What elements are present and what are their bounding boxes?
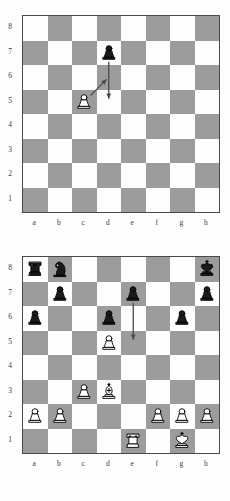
square-h2[interactable] xyxy=(195,404,220,429)
square-d4[interactable] xyxy=(97,114,122,139)
square-e4[interactable] xyxy=(121,355,146,380)
square-g3[interactable] xyxy=(170,139,195,164)
square-h3[interactable] xyxy=(195,139,220,164)
square-a8[interactable] xyxy=(23,257,48,282)
square-e1[interactable] xyxy=(121,188,146,213)
square-f5[interactable] xyxy=(146,90,171,115)
square-h1[interactable] xyxy=(195,188,220,213)
square-e6[interactable] xyxy=(121,306,146,331)
square-a7[interactable] xyxy=(23,282,48,307)
square-b2[interactable] xyxy=(48,404,73,429)
square-a5[interactable] xyxy=(23,90,48,115)
square-a1[interactable] xyxy=(23,188,48,213)
square-f8[interactable] xyxy=(146,257,171,282)
square-b4[interactable] xyxy=(48,114,73,139)
square-h4[interactable] xyxy=(195,355,220,380)
square-e8[interactable] xyxy=(121,16,146,41)
square-h5[interactable] xyxy=(195,90,220,115)
square-e8[interactable] xyxy=(121,257,146,282)
square-h4[interactable] xyxy=(195,114,220,139)
square-b6[interactable] xyxy=(48,65,73,90)
square-g1[interactable] xyxy=(170,429,195,454)
square-d2[interactable] xyxy=(97,163,122,188)
square-f6[interactable] xyxy=(146,65,171,90)
square-a1[interactable] xyxy=(23,429,48,454)
square-f8[interactable] xyxy=(146,16,171,41)
chessboard-2[interactable] xyxy=(22,256,220,454)
square-d7[interactable] xyxy=(97,282,122,307)
square-f6[interactable] xyxy=(146,306,171,331)
chessboard-1[interactable] xyxy=(22,15,220,213)
square-g8[interactable] xyxy=(170,16,195,41)
square-a2[interactable] xyxy=(23,404,48,429)
square-h1[interactable] xyxy=(195,429,220,454)
square-e1[interactable] xyxy=(121,429,146,454)
square-b3[interactable] xyxy=(48,380,73,405)
square-a2[interactable] xyxy=(23,163,48,188)
square-e7[interactable] xyxy=(121,41,146,66)
square-d3[interactable] xyxy=(97,380,122,405)
square-h6[interactable] xyxy=(195,65,220,90)
square-a4[interactable] xyxy=(23,355,48,380)
square-e4[interactable] xyxy=(121,114,146,139)
square-f3[interactable] xyxy=(146,139,171,164)
square-b5[interactable] xyxy=(48,90,73,115)
square-d7[interactable] xyxy=(97,41,122,66)
square-a4[interactable] xyxy=(23,114,48,139)
square-g2[interactable] xyxy=(170,163,195,188)
square-e5[interactable] xyxy=(121,331,146,356)
square-c8[interactable] xyxy=(72,257,97,282)
square-e7[interactable] xyxy=(121,282,146,307)
square-f7[interactable] xyxy=(146,282,171,307)
square-c4[interactable] xyxy=(72,114,97,139)
square-g8[interactable] xyxy=(170,257,195,282)
square-a6[interactable] xyxy=(23,65,48,90)
square-h3[interactable] xyxy=(195,380,220,405)
square-h8[interactable] xyxy=(195,16,220,41)
square-c1[interactable] xyxy=(72,429,97,454)
square-h7[interactable] xyxy=(195,41,220,66)
square-g3[interactable] xyxy=(170,380,195,405)
square-f3[interactable] xyxy=(146,380,171,405)
square-b2[interactable] xyxy=(48,163,73,188)
square-a5[interactable] xyxy=(23,331,48,356)
square-b5[interactable] xyxy=(48,331,73,356)
square-b1[interactable] xyxy=(48,188,73,213)
square-c5[interactable] xyxy=(72,90,97,115)
square-h7[interactable] xyxy=(195,282,220,307)
square-e6[interactable] xyxy=(121,65,146,90)
square-a7[interactable] xyxy=(23,41,48,66)
square-b7[interactable] xyxy=(48,282,73,307)
square-d5[interactable] xyxy=(97,90,122,115)
square-g5[interactable] xyxy=(170,331,195,356)
square-g6[interactable] xyxy=(170,65,195,90)
square-f5[interactable] xyxy=(146,331,171,356)
square-c7[interactable] xyxy=(72,41,97,66)
square-f4[interactable] xyxy=(146,114,171,139)
square-c6[interactable] xyxy=(72,306,97,331)
square-d6[interactable] xyxy=(97,65,122,90)
square-b7[interactable] xyxy=(48,41,73,66)
square-a3[interactable] xyxy=(23,380,48,405)
square-g7[interactable] xyxy=(170,282,195,307)
square-b4[interactable] xyxy=(48,355,73,380)
square-f7[interactable] xyxy=(146,41,171,66)
square-b3[interactable] xyxy=(48,139,73,164)
square-d1[interactable] xyxy=(97,188,122,213)
square-c7[interactable] xyxy=(72,282,97,307)
square-a3[interactable] xyxy=(23,139,48,164)
square-c8[interactable] xyxy=(72,16,97,41)
square-f2[interactable] xyxy=(146,163,171,188)
square-d4[interactable] xyxy=(97,355,122,380)
square-c3[interactable] xyxy=(72,139,97,164)
square-f4[interactable] xyxy=(146,355,171,380)
square-d8[interactable] xyxy=(97,16,122,41)
square-b6[interactable] xyxy=(48,306,73,331)
square-d8[interactable] xyxy=(97,257,122,282)
square-h5[interactable] xyxy=(195,331,220,356)
square-d3[interactable] xyxy=(97,139,122,164)
square-g4[interactable] xyxy=(170,355,195,380)
square-d5[interactable] xyxy=(97,331,122,356)
square-f2[interactable] xyxy=(146,404,171,429)
square-g4[interactable] xyxy=(170,114,195,139)
